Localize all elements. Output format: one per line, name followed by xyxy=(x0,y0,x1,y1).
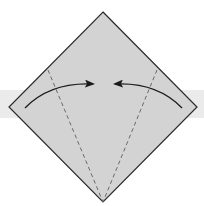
paper-square xyxy=(9,12,197,202)
origami-diagram xyxy=(0,0,204,206)
